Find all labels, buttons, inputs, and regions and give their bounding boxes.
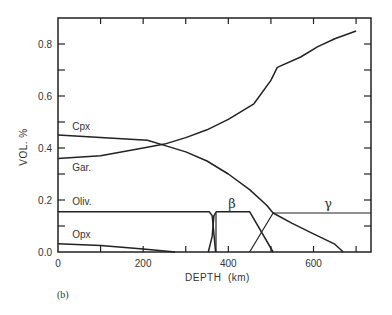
mineral-volume-chart: 02004006000.00.20.40.60.8 CpxGar.Oliv.βγ… (0, 0, 392, 315)
x-tick-label: 200 (135, 258, 152, 269)
series-label: Oliv. (72, 196, 91, 207)
series-line-6 (58, 244, 175, 252)
y-tick-label: 0.4 (38, 143, 52, 154)
series-line-0 (58, 135, 343, 252)
plot-lines (58, 31, 371, 252)
x-tick-label: 400 (220, 258, 237, 269)
y-tick-label: 0.0 (38, 247, 52, 258)
series-label: Cpx (72, 121, 90, 132)
series-label: Opx (72, 229, 90, 240)
series-line-3 (208, 212, 273, 252)
y-tick-label: 0.6 (38, 91, 52, 102)
series-line-1 (58, 31, 356, 158)
x-tick-label: 0 (55, 258, 61, 269)
x-tick-label: 600 (305, 258, 322, 269)
series-label: γ (324, 196, 332, 211)
y-axis-title: VOL. % (18, 128, 29, 165)
x-axis-title: DEPTH (km) (185, 272, 250, 283)
y-tick-label: 0.2 (38, 195, 52, 206)
panel-label: (b) (57, 289, 69, 301)
series-label: β (228, 196, 236, 211)
y-tick-label: 0.8 (38, 39, 52, 50)
series-label: Gar. (72, 162, 91, 173)
